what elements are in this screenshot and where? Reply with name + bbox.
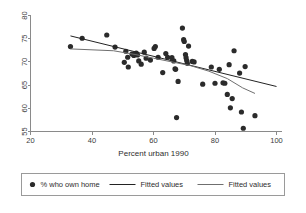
- data-point: [225, 92, 230, 97]
- y-tick-label: 60: [20, 104, 29, 112]
- data-point: [243, 64, 248, 69]
- data-point: [212, 81, 217, 86]
- data-point: [176, 79, 181, 84]
- data-point: [122, 60, 127, 65]
- fitted-line-linear: [70, 36, 276, 87]
- data-point: [153, 44, 158, 49]
- data-point: [252, 113, 257, 118]
- legend-label: % who own home: [41, 180, 100, 189]
- data-point: [191, 59, 196, 64]
- data-point: [209, 64, 214, 69]
- legend-label: Fitted values: [229, 180, 272, 189]
- data-point: [68, 44, 73, 49]
- data-point: [126, 64, 131, 69]
- y-tick-label: 70: [20, 58, 29, 66]
- y-tick-label: 80: [20, 11, 29, 19]
- data-point: [231, 48, 236, 53]
- scatter-series: [68, 25, 258, 130]
- data-point: [230, 96, 235, 101]
- data-point: [174, 115, 179, 120]
- data-point: [217, 67, 222, 72]
- data-point: [222, 81, 227, 86]
- data-point: [139, 62, 144, 67]
- data-point: [241, 126, 246, 131]
- legend-marker-icon: [30, 182, 35, 187]
- data-point: [227, 62, 232, 67]
- x-tick-label: 20: [26, 136, 34, 145]
- data-point: [237, 70, 242, 75]
- data-point: [104, 32, 109, 37]
- scatter-plot: 55606570758020406080100Percent urban 199…: [0, 0, 306, 213]
- x-tick-label: 60: [149, 136, 157, 145]
- legend-label: Fitted values: [141, 180, 184, 189]
- data-point: [180, 25, 185, 30]
- data-point: [239, 109, 244, 114]
- x-tick-label: 80: [211, 136, 219, 145]
- chart-figure: 55606570758020406080100Percent urban 199…: [0, 0, 306, 213]
- x-tick-label: 40: [88, 136, 96, 145]
- data-point: [125, 55, 130, 60]
- data-point: [186, 44, 191, 49]
- data-point: [173, 67, 178, 72]
- x-tick-label: 100: [270, 136, 283, 145]
- y-tick-label: 75: [20, 35, 29, 43]
- data-point: [182, 39, 187, 44]
- y-tick-label: 65: [20, 81, 29, 89]
- data-point: [200, 82, 205, 87]
- data-point: [160, 70, 165, 75]
- data-point: [228, 105, 233, 110]
- y-tick-label: 55: [20, 127, 29, 135]
- x-axis-title: Percent urban 1990: [118, 149, 189, 158]
